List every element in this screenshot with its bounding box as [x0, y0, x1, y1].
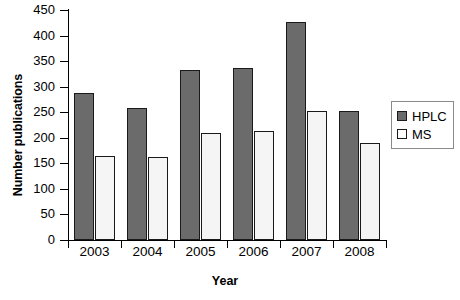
y-axis-tick: 200	[60, 138, 68, 139]
bar-hplc-2007	[286, 22, 306, 240]
y-axis-tick-label: 200	[15, 130, 55, 145]
y-axis-tick-label: 0	[15, 232, 55, 247]
bar-hplc-2005	[180, 70, 200, 240]
chart-legend: HPLCMS	[391, 101, 454, 149]
bar-hplc-2006	[233, 68, 253, 240]
x-axis-tick-label-2006: 2006	[226, 244, 282, 259]
y-axis-tick-label: 100	[15, 181, 55, 196]
bar-hplc-2003	[74, 93, 94, 240]
legend-swatch-icon	[397, 111, 407, 121]
bar-ms-2005	[201, 133, 221, 240]
y-axis-tick-label: 350	[15, 53, 55, 68]
plot-area: 050100150200250300350400450	[68, 10, 386, 240]
x-axis-tick-label-2008: 2008	[332, 244, 388, 259]
x-axis-tick-label-2007: 2007	[279, 244, 335, 259]
bar-ms-2006	[254, 131, 274, 240]
y-axis-tick: 50	[60, 214, 68, 215]
y-axis-tick: 150	[60, 163, 68, 164]
y-axis-tick: 400	[60, 36, 68, 37]
y-axis-tick: 250	[60, 112, 68, 113]
bar-ms-2007	[307, 111, 327, 240]
y-axis-tick-label: 400	[15, 28, 55, 43]
y-axis-tick-label: 300	[15, 79, 55, 94]
x-axis-tick-label-2005: 2005	[173, 244, 229, 259]
bar-chart-figure: Number publications 05010015020025030035…	[0, 0, 460, 300]
y-axis-tick-label: 150	[15, 155, 55, 170]
x-axis-tick-label-2004: 2004	[120, 244, 176, 259]
bar-hplc-2008	[339, 111, 359, 240]
y-axis-line	[68, 9, 69, 241]
legend-swatch-icon	[397, 129, 407, 139]
legend-item-hplc: HPLC	[397, 107, 447, 125]
x-axis-tick-label-2003: 2003	[67, 244, 123, 259]
y-axis-tick-label: 450	[15, 2, 55, 17]
y-axis-tick: 350	[60, 61, 68, 62]
y-axis-tick: 300	[60, 87, 68, 88]
legend-item-ms: MS	[397, 125, 447, 143]
legend-label: MS	[412, 127, 432, 142]
legend-label: HPLC	[412, 109, 447, 124]
bar-hplc-2004	[127, 108, 147, 240]
bar-ms-2003	[95, 156, 115, 240]
x-axis-title: Year	[60, 274, 390, 288]
y-axis-tick: 100	[60, 189, 68, 190]
x-axis-line	[60, 240, 387, 241]
y-axis-tick: 450	[60, 10, 68, 11]
y-axis-tick: 0	[60, 240, 68, 241]
bar-ms-2004	[148, 157, 168, 240]
y-axis-tick-label: 50	[15, 206, 55, 221]
y-axis-tick-label: 250	[15, 104, 55, 119]
bar-ms-2008	[360, 143, 380, 240]
